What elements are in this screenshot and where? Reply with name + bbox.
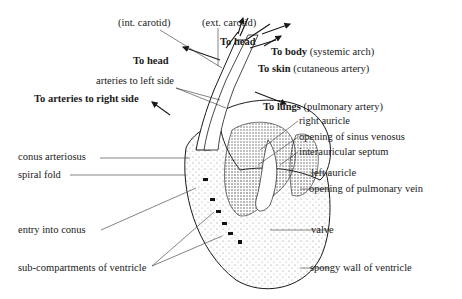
label-ext-carotid: (ext. carotid) — [202, 17, 256, 29]
label-to-lungs: To lungs (pulmonary artery) — [263, 101, 383, 113]
label-to-head-left: To head — [133, 55, 169, 67]
label-arteries-left: arteries to left side — [96, 75, 174, 87]
label-to-head-top: To head — [220, 36, 256, 48]
label-to-skin: To skin (cutaneous artery) — [258, 63, 369, 75]
label-to-body: To body (systemic arch) — [271, 46, 374, 58]
label-sinus-venosus: opening of sinus venosus — [299, 131, 405, 143]
label-conus-arteriosus: conus arteriosus — [18, 151, 86, 163]
label-entry-conus: entry into conus — [18, 224, 86, 236]
label-right-auricle: right auricle — [299, 115, 350, 127]
label-interauricular-septum: interauricular septum — [299, 146, 389, 158]
label-int-carotid: (int. carotid) — [118, 17, 170, 29]
label-pulmonary-vein: opening of pulmonary vein — [309, 183, 423, 195]
label-valve: valve — [311, 224, 334, 236]
label-sub-compartments: sub-compartments of ventricle — [18, 262, 146, 274]
label-spiral-fold: spiral fold — [18, 169, 61, 181]
label-spongy-wall: spongy wall of ventricle — [310, 262, 412, 274]
label-left-auricle: left auricle — [311, 167, 356, 179]
label-arteries-right: To arteries to right side — [34, 93, 139, 105]
